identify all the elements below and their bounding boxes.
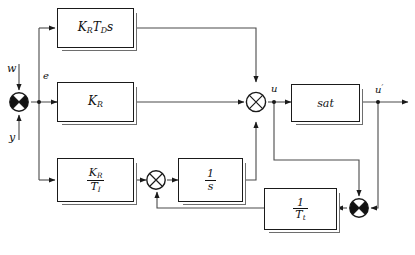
- wire-integrator-out: [243, 122, 256, 180]
- signal-label-error: e: [43, 70, 49, 81]
- wire-derivative-out: [134, 28, 256, 82]
- signal-label-saturated-control: u′: [375, 83, 383, 95]
- tracking-gain-block-label: 1 Tt: [293, 197, 307, 222]
- saturation-block-label: sat: [317, 98, 334, 109]
- integral-gain-block-label: KR TI: [87, 167, 105, 192]
- wire-uprime-to-windup: [371, 102, 378, 208]
- signal-label-measurement: y: [9, 131, 15, 144]
- integrator-summing-junction: [147, 171, 165, 189]
- signal-label-setpoint: w: [7, 62, 16, 75]
- windup-summing-junction: [350, 199, 368, 217]
- saturation-block: sat: [291, 84, 360, 122]
- derivative-block: KRTDs: [57, 8, 134, 48]
- signal-label-control: u: [271, 83, 277, 94]
- integral-gain-block: KR TI: [57, 158, 134, 202]
- integrator-block: 1 s: [178, 158, 243, 202]
- derivative-block-label: KRTDs: [78, 21, 113, 35]
- tracking-gain-block: 1 Tt: [264, 188, 337, 230]
- control-summing-junction: [246, 92, 265, 111]
- error-summing-junction: [10, 93, 28, 111]
- integrator-block-label: 1 s: [205, 168, 216, 192]
- proportional-block: KR: [57, 82, 134, 122]
- block-diagram: KRTDs KR KR TI 1 s sat 1 Tt: [0, 0, 415, 255]
- proportional-block-label: KR: [88, 95, 103, 109]
